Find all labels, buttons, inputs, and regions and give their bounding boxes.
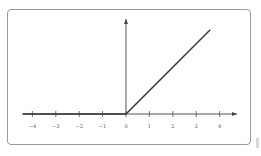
x-tick-label: −3 [52,123,59,129]
x-tick-label: −2 [76,123,83,129]
relu-line [23,30,210,114]
x-tick-label: −4 [29,123,36,129]
x-tick-label: 4 [218,123,221,129]
x-tick-label: 2 [171,123,174,129]
relu-chart: −4−3−2−101234 [0,0,261,156]
x-tick-label: −1 [99,123,106,129]
x-tick-label: 1 [148,123,151,129]
x-tick-label: 3 [195,123,198,129]
x-tick-label: 0 [124,123,127,129]
